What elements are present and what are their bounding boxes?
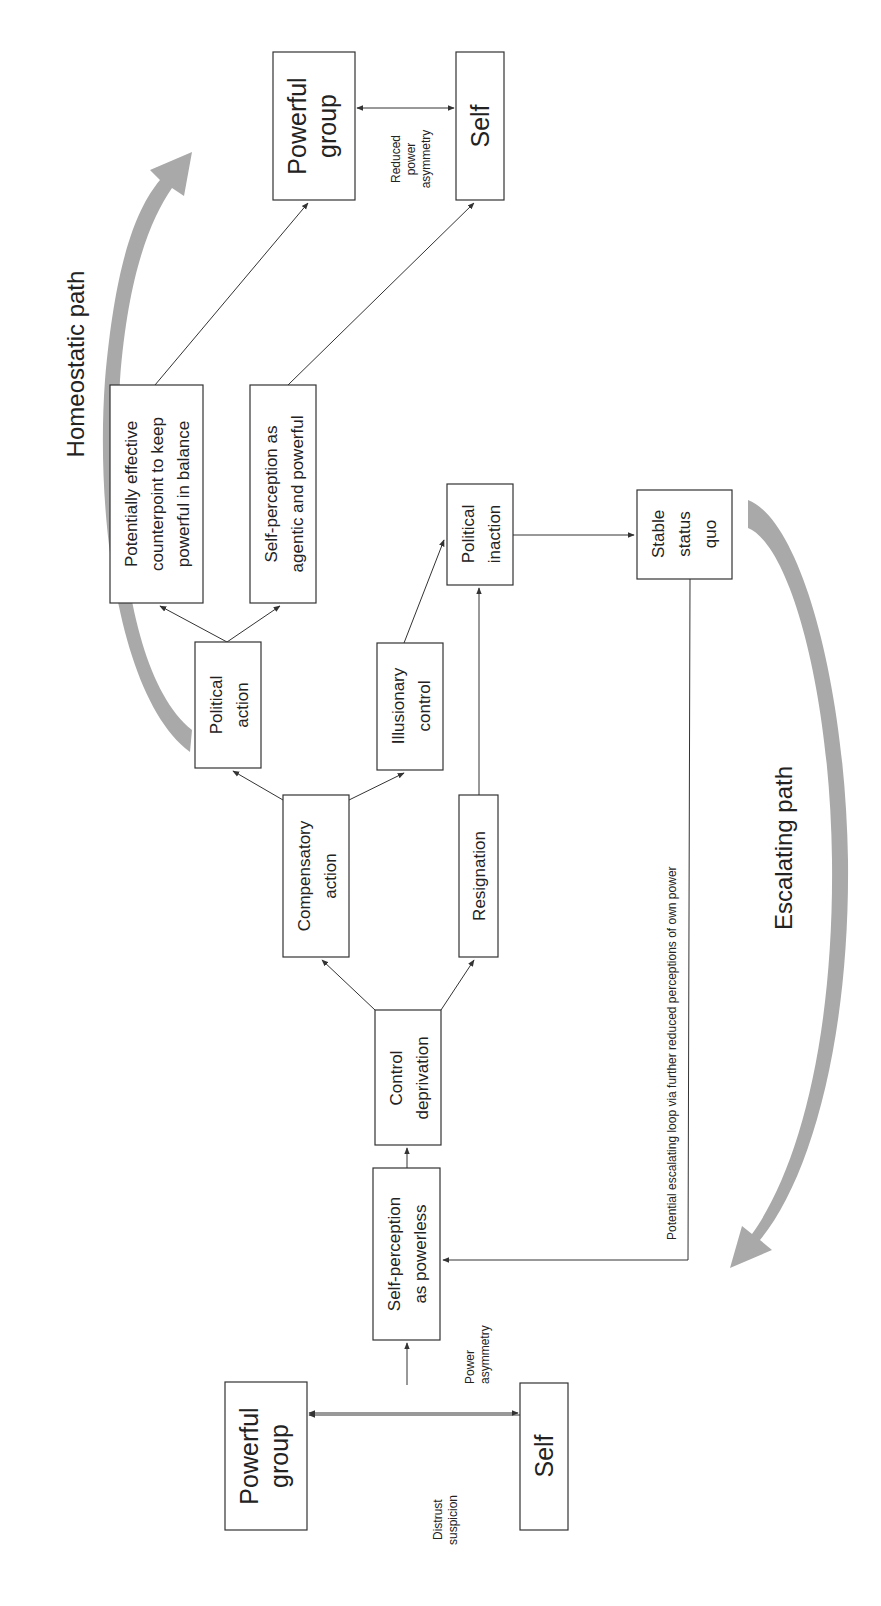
homeostatic-path-label: Homeostatic path <box>62 271 89 458</box>
svg-text:Potentially effective: Potentially effective <box>122 421 141 567</box>
node-illusionary-control: Illusionary control <box>377 643 443 770</box>
svg-text:Self: Self <box>530 1434 558 1477</box>
svg-text:suspicion: suspicion <box>446 1495 460 1545</box>
node-effective-counterpoint: Potentially effective counterpoint to ke… <box>110 385 203 603</box>
node-resignation: Resignation <box>459 795 498 957</box>
svg-text:quo: quo <box>701 520 720 548</box>
svg-text:Distrust: Distrust <box>431 1499 445 1540</box>
node-self-start: Self <box>520 1383 568 1530</box>
svg-text:Power: Power <box>463 1350 477 1384</box>
svg-text:Compensatory: Compensatory <box>295 820 314 931</box>
edge-counterpoint-to-group <box>155 203 308 385</box>
svg-text:Powerful: Powerful <box>283 77 311 174</box>
edge-action-to-counterpoint <box>160 606 227 642</box>
svg-text:Self: Self <box>466 104 494 147</box>
svg-text:powerful in balance: powerful in balance <box>174 421 193 567</box>
edge-deprivation-to-resignation <box>441 960 474 1010</box>
node-powerful-group-start: Powerful group <box>225 1382 307 1530</box>
svg-text:Self-perception: Self-perception <box>385 1197 404 1311</box>
node-self-perception-agentic: Self-perception as agentic and powerful <box>250 385 316 603</box>
svg-text:Stable: Stable <box>649 510 668 558</box>
svg-text:deprivation: deprivation <box>413 1036 432 1119</box>
svg-text:power: power <box>404 143 418 176</box>
node-political-action: Political action <box>195 642 261 768</box>
edge-illusionary-to-inaction <box>404 540 444 643</box>
edge-deprivation-to-compensatory <box>322 960 375 1010</box>
svg-text:asymmetry: asymmetry <box>419 130 433 189</box>
edge-compensatory-to-action <box>233 771 283 800</box>
svg-text:status: status <box>675 511 694 556</box>
svg-text:Powerful: Powerful <box>235 1407 263 1504</box>
node-control-deprivation: Control deprivation <box>375 1010 441 1145</box>
svg-text:inaction: inaction <box>485 505 504 564</box>
node-self-end: Self <box>456 52 504 200</box>
label-distrust-suspicion: Distrust suspicion <box>431 1495 460 1545</box>
svg-text:Reduced: Reduced <box>389 135 403 183</box>
node-compensatory-action: Compensatory action <box>283 795 349 957</box>
svg-text:action: action <box>321 853 340 898</box>
svg-text:group: group <box>313 94 341 158</box>
label-reduced-power-asymmetry: Reduced power asymmetry <box>389 130 433 189</box>
node-powerful-group-end: Powerful group <box>273 52 355 200</box>
node-stable-status-quo: Stable status quo <box>637 490 732 579</box>
edge-compensatory-to-illusionary <box>349 773 404 800</box>
svg-text:Self-perception as: Self-perception as <box>262 425 281 562</box>
flow-diagram: Homeostatic path Escalating path Power a… <box>0 0 881 1606</box>
svg-text:Political: Political <box>459 505 478 564</box>
svg-text:Resignation: Resignation <box>470 831 489 921</box>
label-power-asymmetry: Power asymmetry <box>463 1325 492 1384</box>
label-escalating-loop: Potential escalating loop via further re… <box>665 866 679 1240</box>
svg-text:agentic and powerful: agentic and powerful <box>288 416 307 573</box>
svg-text:counterpoint to keep: counterpoint to keep <box>148 417 167 571</box>
svg-text:as powerless: as powerless <box>411 1204 430 1303</box>
svg-text:Political: Political <box>207 676 226 735</box>
node-self-perception-powerless: Self-perception as powerless <box>373 1168 440 1340</box>
escalating-path-label: Escalating path <box>770 766 797 930</box>
node-political-inaction: Political inaction <box>447 484 513 585</box>
svg-text:asymmetry: asymmetry <box>478 1325 492 1384</box>
svg-text:control: control <box>415 680 434 731</box>
edge-agentic-to-self <box>288 203 474 385</box>
svg-text:action: action <box>233 682 252 727</box>
svg-text:Illusionary: Illusionary <box>389 667 408 744</box>
edge-action-to-agentic <box>227 606 280 642</box>
svg-text:Control: Control <box>387 1051 406 1106</box>
svg-text:group: group <box>265 1424 293 1488</box>
